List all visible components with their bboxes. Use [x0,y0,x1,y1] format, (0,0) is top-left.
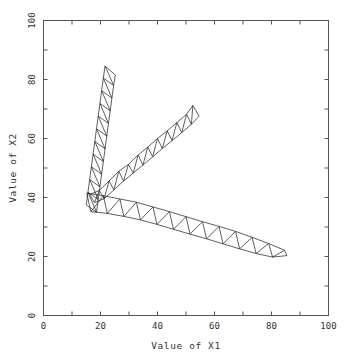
mesh-zigzag [90,105,199,202]
x-tick-label: 0 [41,321,46,331]
plot-frame-box [44,21,329,316]
y-tick-label: 0 [27,313,37,318]
y-axis-title: Value of X2 [7,133,18,203]
x-axis-ticklabels: 020406080100 [41,321,337,331]
y-axis-ticks [44,21,329,316]
chart-canvas: 020406080100 020406080100 Value of X1 Va… [0,0,350,358]
mesh-rail-a [87,193,285,250]
y-tick-label: 60 [27,133,37,144]
scatter-plot-svg: 020406080100 020406080100 Value of X1 Va… [0,0,350,358]
y-tick-label: 80 [27,74,37,85]
axis-titles: Value of X1 Value of X2 [7,133,221,351]
x-tick-label: 100 [320,321,336,331]
x-axis-title: Value of X1 [151,340,221,351]
x-axis-ticks [44,21,329,316]
mesh-zigzag [86,66,115,212]
mesh-zigzag [87,193,287,257]
y-tick-label: 20 [27,251,37,262]
x-tick-label: 80 [266,321,277,331]
x-tick-label: 60 [209,321,220,331]
y-tick-label: 40 [27,192,37,203]
plot-frame [44,21,329,316]
x-tick-label: 20 [95,321,106,331]
mesh-rail-b [91,212,287,257]
x-tick-label: 40 [152,321,163,331]
data-mesh-layer [82,66,287,257]
y-tick-label: 100 [27,12,37,28]
mesh-rail-b [95,116,200,202]
y-axis-ticklabels: 020406080100 [27,12,37,318]
